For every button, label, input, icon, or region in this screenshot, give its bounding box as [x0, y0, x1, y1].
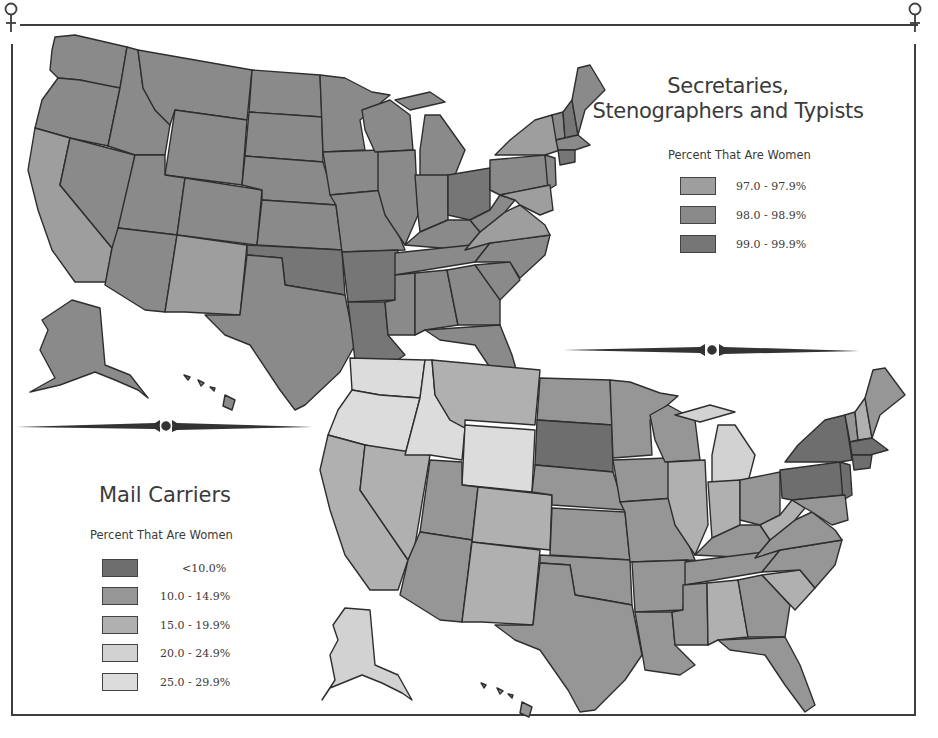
state-ak [322, 608, 412, 700]
mail-carriers-legend-item: 10.0 - 14.9% [102, 587, 230, 605]
state-nd [249, 70, 322, 117]
state-wy [165, 110, 247, 185]
mail-carriers-legend-item: 20.0 - 24.9% [102, 644, 230, 662]
state-ia [613, 458, 675, 502]
state-sd [245, 112, 323, 162]
state-me [865, 368, 905, 438]
secretaries-legend-item: 97.0 - 97.9% [680, 177, 806, 195]
divider-ornament-right [563, 344, 860, 356]
state-oh [740, 472, 780, 525]
legend-swatch [102, 616, 138, 634]
secretaries-legend-item: 99.0 - 99.9% [680, 235, 806, 253]
legend-swatch [680, 206, 716, 224]
state-nm [165, 235, 247, 315]
state-ia [323, 150, 385, 195]
state-ar [342, 250, 398, 302]
mail-carriers-legend-item: 15.0 - 19.9% [102, 616, 230, 634]
state-ma [850, 438, 888, 455]
secretaries-title-line1: Secretaries, [578, 74, 878, 99]
mail-carriers-map [320, 358, 905, 717]
secretaries-map [28, 35, 605, 410]
state-ak [30, 300, 148, 398]
secretaries-legend-item: 98.0 - 98.9% [680, 206, 806, 224]
legend-label: 98.0 - 98.9% [736, 209, 806, 222]
legend-label: 97.0 - 97.9% [736, 180, 806, 193]
secretaries-legend-subtitle: Percent That Are Women [668, 148, 811, 162]
legend-label: 15.0 - 19.9% [160, 619, 230, 632]
state-sd [535, 420, 613, 472]
state-ar [632, 560, 688, 612]
legend-label: 99.0 - 99.9% [736, 238, 806, 251]
divider-ornament-left [16, 420, 313, 432]
state-ny [785, 415, 852, 462]
legend-label: <10.0% [182, 562, 226, 575]
state-oh [448, 168, 490, 220]
legend-swatch [102, 644, 138, 662]
secretaries-title-line2: Stenographers and Typists [578, 99, 878, 124]
state-fl [718, 637, 815, 712]
state-nd [537, 378, 612, 425]
mail-carriers-legend-subtitle: Percent That Are Women [90, 528, 233, 542]
state-pa [780, 462, 845, 500]
mail-carriers-legend-item: 25.0 - 29.9% [102, 673, 230, 691]
legend-label: 20.0 - 24.9% [160, 647, 230, 660]
state-ct [558, 150, 575, 165]
state-co [177, 178, 262, 245]
mail-carriers-map-title: Mail Carriers [70, 482, 260, 508]
state-hi [481, 683, 532, 717]
legend-label: 25.0 - 29.9% [160, 676, 230, 689]
state-mt [432, 360, 540, 428]
legend-swatch [680, 235, 716, 253]
state-ks [257, 200, 342, 250]
legend-swatch [102, 587, 138, 605]
mail-carriers-legend-item: <10.0% [102, 559, 226, 577]
legend-swatch [102, 559, 138, 577]
state-hi [184, 375, 235, 410]
state-co [472, 487, 552, 550]
state-ct [852, 455, 872, 470]
state-ks [550, 508, 630, 560]
state-az [105, 228, 177, 312]
state-wy [462, 425, 535, 492]
legend-label: 10.0 - 14.9% [160, 590, 230, 603]
legend-swatch [680, 177, 716, 195]
state-wi [362, 100, 413, 152]
state-nm [462, 542, 540, 625]
state-ny [495, 115, 560, 155]
legend-swatch [102, 673, 138, 691]
secretaries-map-title: Secretaries, Stenographers and Typists [578, 74, 878, 124]
